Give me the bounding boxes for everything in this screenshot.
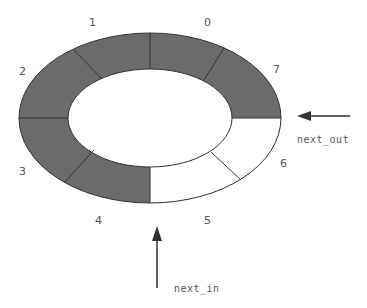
slot-label-4: 4 xyxy=(95,215,102,226)
slot-label-2: 2 xyxy=(19,66,26,77)
slot-label-5: 5 xyxy=(204,215,211,226)
slot-label-7: 7 xyxy=(273,64,280,75)
slot-label-1: 1 xyxy=(89,17,96,28)
circular-buffer-diagram xyxy=(0,0,367,308)
slot-label-6: 6 xyxy=(280,158,287,169)
buffer-empty-slots xyxy=(150,118,281,203)
slot-label-0: 0 xyxy=(204,17,211,28)
next-out-label: next_out xyxy=(297,134,349,145)
slot-label-3: 3 xyxy=(19,166,26,177)
next-in-label: next_in xyxy=(174,283,220,294)
